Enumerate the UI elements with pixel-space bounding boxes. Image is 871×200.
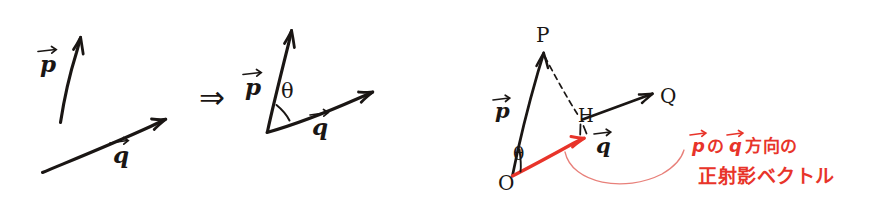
left-vector-p-arrow xyxy=(61,37,84,122)
projection-annotation-group: p の q 方向の 正射影ベクトル xyxy=(690,131,835,188)
annotation-particle-no-1: の xyxy=(707,136,725,156)
panel-left: p q xyxy=(38,37,166,172)
right-point-q-label: Q xyxy=(660,84,676,108)
right-vector-q-label: q xyxy=(596,133,611,158)
middle-angle-theta-label: θ xyxy=(281,79,294,103)
right-perpendicular-dashed-line xyxy=(545,57,578,115)
middle-vector-p-label: p xyxy=(245,73,261,100)
annotation-vec-p: p xyxy=(691,135,705,156)
figure-canvas: p q ⇒ xyxy=(0,0,871,200)
annotation-vec-q: q xyxy=(729,135,742,156)
handwritten-vector-figure: p q ⇒ xyxy=(0,0,871,200)
implies-symbol: ⇒ xyxy=(199,79,225,115)
right-angle-theta-label: θ xyxy=(513,142,524,164)
panel-middle: p θ q xyxy=(243,31,373,141)
annotation-projection-vector-text: 正射影ベクトル xyxy=(698,165,835,187)
middle-vector-q-label-group: q xyxy=(310,110,328,141)
middle-angle-arc xyxy=(277,105,290,121)
panel-right: P H Q O p θ q xyxy=(493,23,684,195)
middle-vector-q-label: q xyxy=(312,113,328,140)
left-vector-q-label-group: q xyxy=(110,138,129,169)
middle-vector-p-label-group: p xyxy=(243,70,261,101)
right-angle-tick-at-h xyxy=(580,125,586,135)
right-point-p-label: P xyxy=(536,23,549,47)
left-vector-q-label: q xyxy=(113,141,129,168)
right-vector-p-label: p xyxy=(495,98,510,123)
annotation-line-2: 正射影ベクトル xyxy=(698,165,835,187)
left-vector-p-label-group: p xyxy=(38,47,56,78)
right-point-h-label: H xyxy=(578,105,594,126)
right-vector-p-label-group: p xyxy=(493,95,510,123)
left-vector-p-label: p xyxy=(40,50,56,77)
right-vector-q-label-group: q xyxy=(594,129,611,158)
left-vector-q-arrow xyxy=(43,119,166,173)
implication-arrow-group: ⇒ xyxy=(199,79,225,115)
annotation-line-1: p の q 方向の xyxy=(690,131,798,157)
right-point-o-label: O xyxy=(498,171,514,195)
annotation-direction-suffix: 方向の xyxy=(745,136,798,156)
annotation-connector-arc xyxy=(565,150,684,184)
